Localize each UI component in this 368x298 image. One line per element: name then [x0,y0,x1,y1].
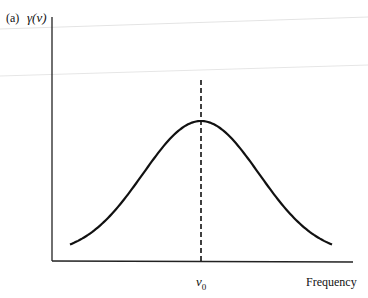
chart-canvas [0,0,368,298]
x-axis-label: Frequency [306,276,357,288]
scan-artifact-line [0,65,368,76]
y-axis-label: γ(ν) [27,11,47,24]
panel-label: (a) [6,12,19,24]
x-tick-sub: 0 [202,282,207,292]
scan-artifact-line [0,17,368,29]
x-tick-nu0: ν0 [196,275,206,292]
x-axis [52,261,353,262]
